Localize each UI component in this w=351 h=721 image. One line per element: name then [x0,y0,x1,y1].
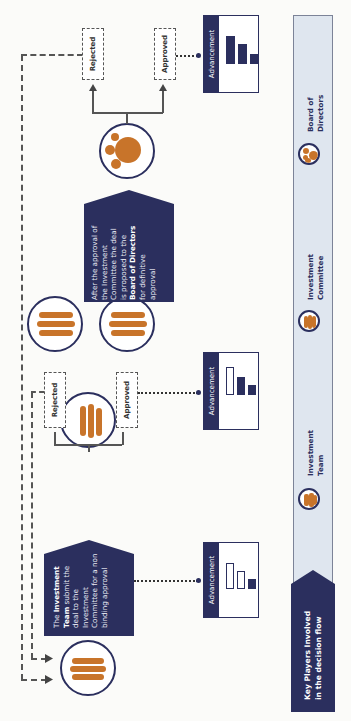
investment-team-people-icon [62,642,114,694]
rejection-feedback-line-outer-top [21,54,83,56]
people-icon [29,298,81,350]
investment-committee-circle [60,392,116,448]
progress-bar-1 [226,563,234,589]
progress-bar-3 [248,579,256,589]
legend-label-investment-team: Investment Team [306,430,326,476]
step1-connector [134,580,198,582]
rejection-feedback-line-outer-bottom [21,679,47,681]
branch-vertical [92,112,163,114]
board-of-directors-circle [99,123,155,179]
progress-bar-1 [226,367,234,395]
legend-line: Investment [306,254,316,300]
connector-dot [196,390,201,395]
legend-title-line: in the decision flow [313,611,324,700]
branch-to-approved [162,88,164,113]
committee-review-circle-approved [99,296,155,352]
progress-bar-1 [226,36,235,64]
legend-line: Team [316,430,326,476]
step2-approved-box: Approved [116,372,138,428]
legend-label-investment-committee: Investment Committee [306,254,326,300]
arrowhead-icon [159,84,167,91]
legend-line: Board of [306,95,316,132]
investment-team-circle [60,640,116,696]
advancement-label: Advancement [208,30,216,78]
committee-review-circle-rejected [27,296,83,352]
step3-approved-box: Approved [154,28,176,80]
progress-bar-2 [237,571,245,589]
legend-line: Investment [306,430,316,476]
step3-advancement-box: Advancement [203,15,259,93]
step3-rejected-box: Rejected [82,28,104,80]
advancement-label: Advancement [208,367,216,415]
branch-stem [126,112,128,124]
branch-joint [88,444,90,452]
rejection-feedback-line-inner [31,392,33,659]
branch-to-rejected [92,88,94,113]
investment-committee-icon [298,310,320,332]
step2-advancement-box: Advancement [203,352,259,430]
step2-connector [138,392,198,394]
progress-bar-3 [248,385,256,395]
legend-line: Committee [316,254,326,300]
rejection-feedback-line-outer [21,55,23,680]
arrowhead-icon [45,675,53,684]
rejection-feedback-line-inner-top [31,391,44,393]
connector-dot [196,578,201,583]
progress-bar-2 [238,44,247,64]
step3-connector [176,55,198,57]
legend-title-line: Key Players Involved [302,611,313,700]
investment-committee-people-icon [62,394,114,446]
key-players-title: Key Players Involved in the decision flo… [302,611,324,700]
advancement-label: Advancement [208,556,216,604]
arrowhead-icon [45,654,53,663]
board-of-directors-people-icon [101,125,153,177]
legend-label-board-of-directors: Board of Directors [306,95,326,132]
progress-bar-2 [237,377,245,395]
step1-advancement-box: Advancement [203,542,259,618]
arrowhead-icon [89,84,97,91]
connector-dot [196,53,201,58]
step2-rejected-box: Rejected [44,372,66,428]
branch-to-rejected [54,432,56,445]
people-icon [101,298,153,350]
investment-team-icon [298,488,320,510]
progress-bar-3 [250,54,258,64]
board-of-directors-icon [298,143,320,165]
legend-line: Directors [316,95,326,132]
branch-to-approved [122,432,124,445]
